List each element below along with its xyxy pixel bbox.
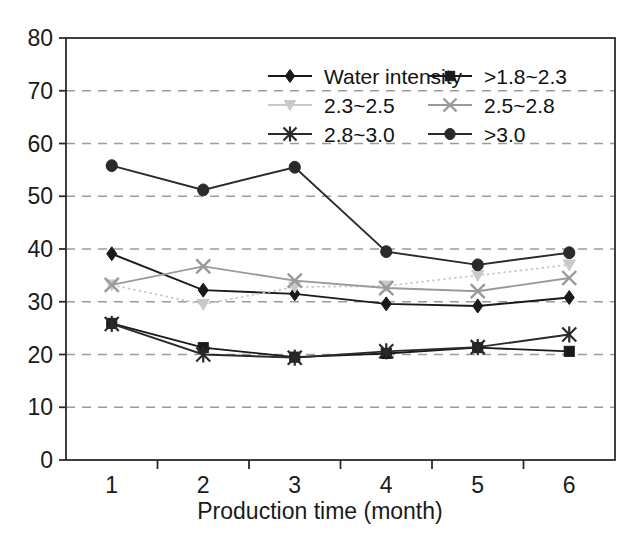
marker-square — [564, 346, 574, 356]
marker-circle — [564, 247, 575, 259]
x-tick-label-6: 6 — [563, 472, 576, 498]
x-tick-label-4: 4 — [380, 472, 393, 498]
legend-label: 2.3~2.5 — [324, 94, 395, 117]
marker-circle — [106, 160, 117, 172]
marker-square — [445, 71, 454, 80]
legend-label: 2.5~2.8 — [484, 94, 555, 117]
x-axis-title: Production time (month) — [197, 498, 442, 524]
y-tick-label-30: 30 — [27, 289, 53, 315]
y-tick-label-10: 10 — [27, 394, 53, 420]
legend-label: >1.8~2.3 — [484, 65, 567, 88]
line-chart: 01020304050607080 123456 Water intensity… — [0, 0, 640, 547]
chart-container: 01020304050607080 123456 Water intensity… — [0, 0, 640, 547]
y-tick-label-0: 0 — [40, 447, 53, 473]
y-tick-label-20: 20 — [27, 342, 53, 368]
marker-circle — [289, 161, 300, 173]
marker-circle — [381, 246, 392, 258]
marker-circle — [472, 259, 483, 271]
y-axis-tick-labels: 01020304050607080 — [27, 25, 53, 473]
y-tick-label-60: 60 — [27, 131, 53, 157]
x-tick-label-5: 5 — [471, 472, 484, 498]
marker-circle — [198, 184, 209, 196]
legend-label: >3.0 — [484, 123, 525, 146]
y-tick-label-50: 50 — [27, 183, 53, 209]
y-tick-label-40: 40 — [27, 236, 53, 262]
y-tick-label-70: 70 — [27, 78, 53, 104]
marker-circle — [445, 128, 455, 139]
x-tick-label-1: 1 — [105, 472, 118, 498]
x-tick-label-2: 2 — [197, 472, 210, 498]
legend-label: 2.8~3.0 — [324, 123, 395, 146]
y-tick-label-80: 80 — [27, 25, 53, 51]
x-tick-label-3: 3 — [288, 472, 301, 498]
